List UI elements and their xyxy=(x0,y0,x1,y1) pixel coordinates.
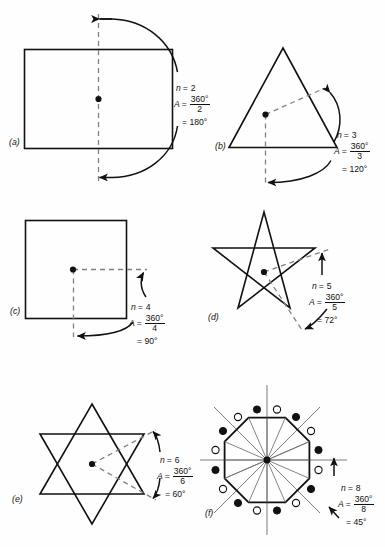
figure-label-e: (e) xyxy=(12,494,23,504)
fraction-denominator: 3 xyxy=(357,152,362,161)
marker-filled xyxy=(253,406,260,413)
figure-b-result: = 120° xyxy=(342,165,367,174)
equals-sign: = xyxy=(319,282,324,291)
rotation-arc-up xyxy=(153,432,160,453)
A-symbol: A xyxy=(157,472,163,481)
A-symbol: A xyxy=(338,500,344,509)
marker-filled xyxy=(212,466,219,473)
equals-sign: = xyxy=(346,500,351,509)
fraction-denominator: 6 xyxy=(180,477,185,486)
figure-d-n-equation: n = 5 xyxy=(312,282,332,291)
figure-b-area-equation: A = 360° 3 xyxy=(334,142,370,161)
A-symbol: A xyxy=(309,298,315,307)
n-symbol: n xyxy=(341,484,346,493)
n-value: 6 xyxy=(175,456,180,465)
figure-c-area-equation: A = 360° 4 xyxy=(129,314,165,333)
figure-c-result: = 90° xyxy=(137,337,157,346)
A-symbol: A xyxy=(129,319,135,328)
center-dot xyxy=(262,111,268,117)
n-symbol: n xyxy=(312,282,317,291)
marker-filled xyxy=(292,413,299,420)
center-dot xyxy=(261,269,267,275)
figure-b-n-equation: n = 3 xyxy=(337,131,357,140)
marker-filled xyxy=(219,427,226,434)
center-dot xyxy=(89,461,95,467)
figure-label-c: (c) xyxy=(10,306,20,316)
figure-a-area-equation: A = 360° 2 xyxy=(174,95,210,114)
equals-sign: = xyxy=(167,456,172,465)
figure-f-graphic xyxy=(200,385,347,535)
angle-fraction: 360° 4 xyxy=(145,314,165,333)
rotation-arc-up xyxy=(141,273,146,298)
marker-filled xyxy=(307,485,314,492)
triangle-outline xyxy=(229,48,337,148)
figure-f-area-equation: A = 360° 8 xyxy=(338,495,374,514)
equals-sign: = xyxy=(342,147,347,156)
fraction-denominator: 4 xyxy=(152,324,157,333)
center-dot xyxy=(70,266,76,272)
n-symbol: n xyxy=(160,456,165,465)
figure-label-b: (b) xyxy=(215,141,226,151)
fraction-denominator: 2 xyxy=(197,105,202,114)
equals-sign: = xyxy=(344,131,349,140)
fraction-denominator: 5 xyxy=(332,303,337,312)
figure-f-result: = 45° xyxy=(346,518,366,527)
n-value: 4 xyxy=(146,303,151,312)
figure-d-graphic xyxy=(213,212,330,330)
figure-label-d: (d) xyxy=(208,312,219,322)
angle-fraction: 360° 2 xyxy=(190,95,210,114)
figure-f-n-equation: n = 8 xyxy=(341,484,361,493)
hexagram-triangle-down xyxy=(40,434,144,524)
hexagram-triangle-up xyxy=(40,404,144,494)
rotation-arc-lower xyxy=(268,161,331,183)
figure-page: (a) n = 2 A = 360° 2 = 180° (b) n = 3 A … xyxy=(0,0,385,547)
marker-open xyxy=(234,413,241,420)
n-value: 2 xyxy=(191,84,196,93)
figure-b-graphic xyxy=(229,48,340,184)
figure-e-graphic xyxy=(40,404,160,524)
rotated-ray-dashed xyxy=(264,249,330,272)
marker-open xyxy=(212,446,219,453)
marker-open xyxy=(307,427,314,434)
angle-fraction: 360° 6 xyxy=(173,467,193,486)
rotation-arc-down xyxy=(78,322,134,336)
A-symbol: A xyxy=(334,147,340,156)
marker-filled xyxy=(273,507,280,514)
marker-open xyxy=(292,499,299,506)
figure-label-a: (a) xyxy=(9,137,20,147)
equals-sign: = xyxy=(317,298,322,307)
fraction-denominator: 8 xyxy=(361,505,366,514)
equals-sign: = xyxy=(138,303,143,312)
figure-a-n-equation: n = 2 xyxy=(176,84,196,93)
figure-d-result: = 72° xyxy=(317,316,337,325)
figure-d-area-equation: A = 360° 5 xyxy=(309,293,345,312)
n-value: 8 xyxy=(356,484,361,493)
figure-c-n-equation: n = 4 xyxy=(131,303,151,312)
n-value: 5 xyxy=(327,282,332,291)
figure-e-n-equation: n = 6 xyxy=(160,456,180,465)
n-symbol: n xyxy=(176,84,181,93)
figure-a-graphic xyxy=(25,14,178,181)
equals-sign: = xyxy=(183,84,188,93)
marker-filled xyxy=(234,499,241,506)
center-dot xyxy=(95,96,101,102)
angle-fraction: 360° 5 xyxy=(325,293,345,312)
marker-filled xyxy=(315,446,322,453)
figure-a-result: = 180° xyxy=(182,118,207,127)
equals-sign: = xyxy=(182,100,187,109)
marker-open xyxy=(273,406,280,413)
angle-fraction: 360° 3 xyxy=(350,142,370,161)
center-dot xyxy=(264,457,271,464)
angle-fraction: 360° 8 xyxy=(354,495,374,514)
equals-sign: = xyxy=(137,319,142,328)
rotation-arc-top xyxy=(100,19,178,72)
n-symbol: n xyxy=(131,303,136,312)
equals-sign: = xyxy=(348,484,353,493)
n-symbol: n xyxy=(337,131,342,140)
A-symbol: A xyxy=(174,100,180,109)
marker-open xyxy=(315,466,322,473)
marker-open xyxy=(219,485,226,492)
figure-e-area-equation: A = 360° 6 xyxy=(157,467,193,486)
marker-open xyxy=(253,507,260,514)
figure-e-result: = 60° xyxy=(165,490,185,499)
